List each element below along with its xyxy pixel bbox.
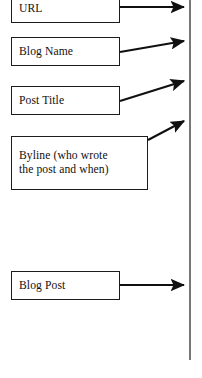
blog-anatomy-diagram: URL Blog Name Post Title Byline (who wro… — [0, 0, 202, 378]
callout-box-blog-name: Blog Name — [11, 37, 120, 66]
callout-label-blog-post: Blog Post — [19, 279, 65, 292]
callout-box-byline: Byline (who wrote the post and when) — [11, 136, 148, 190]
arrow-blog-name — [120, 41, 184, 52]
callout-label-byline: Byline (who wrote the post and when) — [19, 149, 109, 177]
arrow-post-title — [120, 81, 184, 101]
callout-label-blog-name: Blog Name — [19, 45, 73, 58]
arrow-byline — [148, 121, 184, 140]
callout-box-url: URL — [11, 0, 120, 23]
callout-label-post-title: Post Title — [19, 94, 64, 107]
callout-box-blog-post: Blog Post — [11, 271, 120, 300]
callout-box-post-title: Post Title — [11, 86, 120, 115]
callout-label-url: URL — [19, 2, 43, 15]
